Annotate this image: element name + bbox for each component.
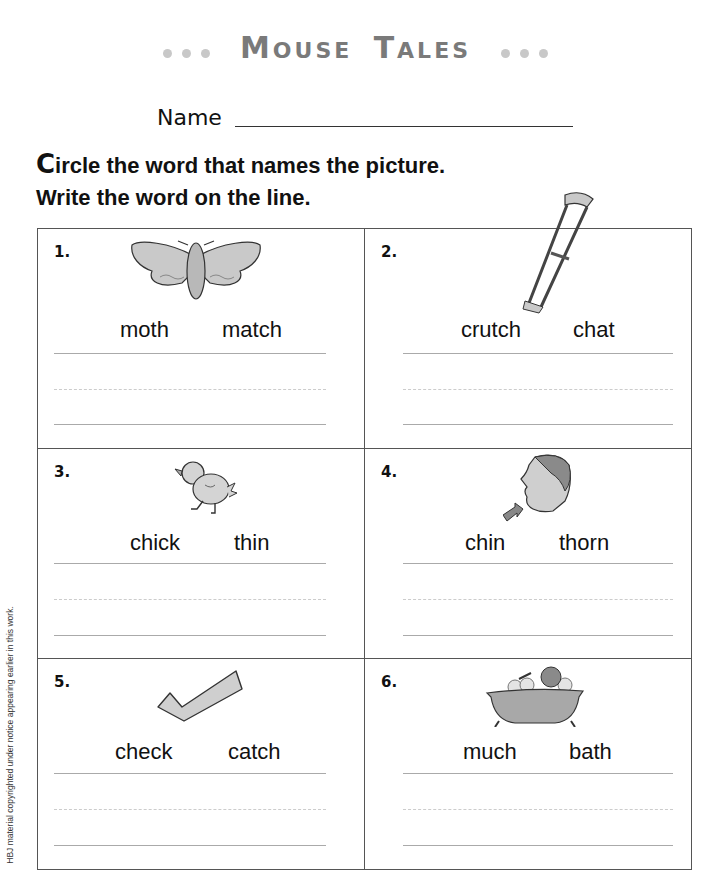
instruction-line1-text: ircle the word that names the picture. — [55, 153, 445, 178]
writing-line-bottom[interactable] — [54, 635, 326, 636]
moth-icon — [130, 237, 262, 309]
name-input-line[interactable] — [235, 126, 573, 127]
writing-line-middle[interactable] — [54, 389, 326, 390]
writing-line-top[interactable] — [403, 353, 673, 354]
title-word-mouse: OUSE — [273, 38, 352, 63]
choice-b[interactable]: thin — [234, 530, 269, 556]
exercise-item-2: 2. crutch chat — [365, 229, 691, 449]
writing-line-top[interactable] — [403, 773, 673, 774]
bath-icon — [485, 663, 585, 727]
choice-b[interactable]: bath — [569, 739, 612, 765]
item-number: 1. — [54, 243, 70, 261]
writing-line-middle[interactable] — [403, 389, 673, 390]
exercise-item-5: 5. check catch — [38, 659, 365, 869]
left-dots-decoration — [158, 40, 215, 65]
writing-line-bottom[interactable] — [403, 635, 673, 636]
writing-line-middle[interactable] — [403, 599, 673, 600]
worksheet-title: MOUSE TALES — [0, 30, 711, 65]
exercise-item-6: 6. much bath — [365, 659, 691, 869]
item-number: 2. — [381, 243, 397, 261]
choice-a[interactable]: chin — [465, 530, 505, 556]
instruction-drop-cap: C — [36, 149, 55, 179]
copyright-text: HBJ material copyrighted under notice ap… — [5, 590, 15, 880]
choice-a[interactable]: moth — [120, 317, 169, 343]
writing-line-bottom[interactable] — [403, 424, 673, 425]
copyright-notice: HBJ material copyrighted under notice ap… — [0, 590, 14, 880]
exercise-grid: 1. moth match 2. crutch chat — [37, 228, 692, 870]
choice-a[interactable]: much — [463, 739, 517, 765]
choice-a[interactable]: chick — [130, 530, 180, 556]
choice-a[interactable]: crutch — [461, 317, 521, 343]
right-dots-decoration — [496, 40, 553, 65]
exercise-item-3: 3. chick thin — [38, 449, 365, 659]
writing-line-middle[interactable] — [54, 809, 326, 810]
writing-line-top[interactable] — [54, 353, 326, 354]
writing-line-top[interactable] — [403, 563, 673, 564]
choice-b[interactable]: chat — [573, 317, 615, 343]
exercise-item-4: 4. chin thorn — [365, 449, 691, 659]
chick-icon — [173, 457, 239, 515]
item-number: 4. — [381, 463, 397, 481]
instruction-circle: Circle the word that names the picture. — [36, 149, 445, 179]
item-number: 6. — [381, 673, 397, 691]
writing-line-bottom[interactable] — [403, 845, 673, 846]
crutch-icon — [515, 185, 595, 315]
name-label: Name — [157, 105, 222, 130]
item-number: 3. — [54, 463, 70, 481]
choice-b[interactable]: thorn — [559, 530, 609, 556]
exercise-item-1: 1. moth match — [38, 229, 365, 449]
writing-line-top[interactable] — [54, 773, 326, 774]
title-cap-m: M — [240, 30, 273, 65]
writing-line-bottom[interactable] — [54, 424, 326, 425]
writing-line-bottom[interactable] — [54, 845, 326, 846]
writing-line-top[interactable] — [54, 563, 326, 564]
choice-b[interactable]: match — [222, 317, 282, 343]
choice-b[interactable]: catch — [228, 739, 281, 765]
title-cap-t: T — [374, 30, 397, 65]
chin-icon — [503, 451, 575, 523]
check-mark-icon — [156, 669, 246, 723]
writing-line-middle[interactable] — [54, 599, 326, 600]
choice-a[interactable]: check — [115, 739, 172, 765]
title-word-tales: ALES — [397, 38, 471, 63]
writing-line-middle[interactable] — [403, 809, 673, 810]
item-number: 5. — [54, 673, 70, 691]
instruction-write: Write the word on the line. — [36, 185, 311, 211]
